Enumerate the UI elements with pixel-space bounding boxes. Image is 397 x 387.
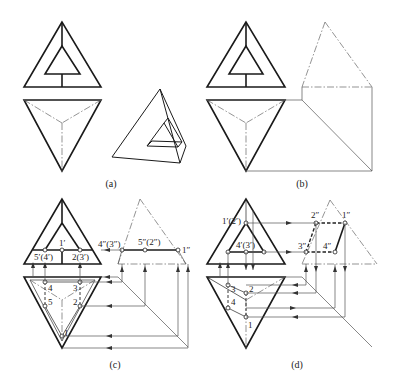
label-2-top: 2 bbox=[249, 284, 254, 294]
label-3-top: 3 bbox=[231, 284, 236, 294]
caption-d: (d) bbox=[291, 359, 303, 371]
label-3-top: 3 bbox=[73, 283, 78, 293]
label-4-3-front: 4′(3′) bbox=[236, 240, 255, 250]
caption-a: (a) bbox=[105, 178, 116, 190]
label-1-top: 1 bbox=[64, 328, 69, 338]
isometric-view-a bbox=[112, 89, 186, 163]
label-4-top: 4 bbox=[231, 297, 236, 307]
label-2-side: 2″ bbox=[311, 210, 320, 220]
front-view-c: 1′ 5′(4′) 2(3′) bbox=[24, 199, 101, 264]
label-4-top: 4 bbox=[48, 283, 53, 293]
label-1-side: 1″ bbox=[342, 210, 351, 220]
label-1-side: 1″ bbox=[182, 245, 191, 255]
front-view-b bbox=[207, 22, 285, 87]
projection-figure: (a) (b) bbox=[0, 0, 397, 387]
label-2-top: 2 bbox=[73, 297, 78, 307]
top-view-b bbox=[207, 100, 285, 171]
label-5-top: 5 bbox=[48, 297, 53, 307]
front-view-a bbox=[24, 22, 101, 87]
panel-a: (a) bbox=[24, 22, 186, 190]
panel-b: (b) bbox=[207, 22, 372, 190]
label-1-front: 1′ bbox=[59, 238, 66, 248]
label-4-side: 4″ bbox=[323, 241, 332, 251]
panel-c: 1′ 5′(4′) 2(3′) 4 3 5 2 1 bbox=[24, 199, 191, 371]
panel-d: 1′(2′) 4′(3′) 3 2 4 1 bbox=[207, 199, 377, 371]
caption-b: (b) bbox=[296, 178, 308, 190]
top-view-d: 3 2 4 1 bbox=[207, 277, 285, 348]
label-5-2-side: 5″(2″) bbox=[138, 237, 161, 247]
label-5-4-front: 5′(4′) bbox=[34, 252, 53, 262]
side-view-d: 2″ 1″ 3″ 4″ bbox=[218, 200, 377, 347]
top-view-a bbox=[24, 100, 101, 171]
label-4-3-side: 4″(3″) bbox=[98, 239, 121, 249]
label-1-2-front: 1′(2′) bbox=[222, 216, 241, 226]
label-1-top: 1 bbox=[248, 320, 253, 330]
side-view-b bbox=[246, 22, 372, 171]
label-2-3-front: 2(3′) bbox=[72, 252, 89, 262]
top-view-c: 4 3 5 2 1 bbox=[24, 277, 101, 348]
label-3-side: 3″ bbox=[298, 241, 307, 251]
caption-c: (c) bbox=[109, 359, 120, 371]
